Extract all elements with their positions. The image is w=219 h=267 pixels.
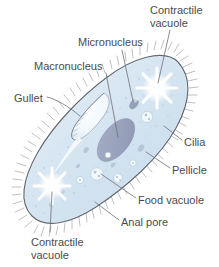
label-contractile-vacuole-bottom-line1: Contractile	[31, 236, 84, 248]
paramecium-diagram: Contractile vacuole Micronucleus Macronu…	[0, 0, 219, 267]
label-contractile-vacuole-bottom: Contractile vacuole	[31, 236, 97, 261]
contractile-vacuole-anterior	[137, 68, 177, 108]
label-gullet: Gullet	[14, 92, 43, 105]
label-food-vacuole: Food vacuole	[138, 194, 204, 207]
label-pellicle: Pellicle	[172, 164, 207, 177]
label-contractile-vacuole-top-line2: vacuole	[150, 17, 188, 29]
label-cilia: Cilia	[184, 136, 205, 149]
label-contractile-vacuole-top-line1: Contractile	[150, 4, 203, 16]
label-micronucleus: Micronucleus	[78, 36, 143, 49]
label-anal-pore: Anal pore	[121, 216, 168, 229]
label-contractile-vacuole-top: Contractile vacuole	[150, 4, 216, 29]
leader-anal-pore	[95, 202, 119, 220]
label-macronucleus: Macronucleus	[34, 60, 102, 73]
label-contractile-vacuole-bottom-line2: vacuole	[31, 249, 69, 261]
